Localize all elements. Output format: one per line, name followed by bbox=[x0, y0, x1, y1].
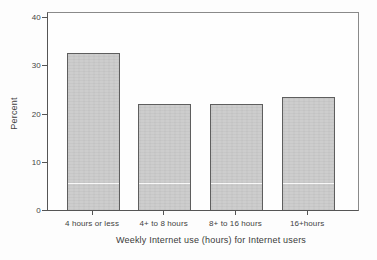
scan-artifact-line bbox=[211, 183, 262, 184]
y-axis-tick bbox=[42, 114, 47, 115]
x-axis-tick bbox=[235, 211, 236, 215]
y-axis-tick-label: 20 bbox=[18, 109, 41, 120]
bar bbox=[67, 53, 120, 210]
y-axis-tick-label: 30 bbox=[18, 60, 41, 71]
x-axis-tick bbox=[307, 211, 308, 215]
bar bbox=[210, 104, 263, 210]
bar bbox=[138, 104, 191, 210]
y-axis-tick bbox=[42, 17, 47, 18]
scan-artifact-line bbox=[139, 183, 190, 184]
y-axis-tick-label: 10 bbox=[18, 157, 41, 168]
y-axis-tick bbox=[42, 65, 47, 66]
scan-artifact-line bbox=[68, 183, 119, 184]
x-axis-tick bbox=[163, 211, 164, 215]
x-axis-tick bbox=[92, 211, 93, 215]
y-axis-tick-label: 40 bbox=[18, 12, 41, 23]
x-axis-title: Weekly Internet use (hours) for Internet… bbox=[51, 235, 371, 246]
bar-chart-figure: Percent Weekly Internet use (hours) for … bbox=[0, 0, 377, 260]
scan-artifact-line bbox=[283, 183, 334, 184]
y-axis-tick bbox=[42, 210, 47, 211]
x-axis-category-label: 16+hours bbox=[265, 219, 349, 229]
y-axis-tick-label: 0 bbox=[18, 205, 41, 216]
y-axis-tick bbox=[42, 162, 47, 163]
plot-area bbox=[47, 12, 359, 211]
bar bbox=[282, 97, 335, 210]
